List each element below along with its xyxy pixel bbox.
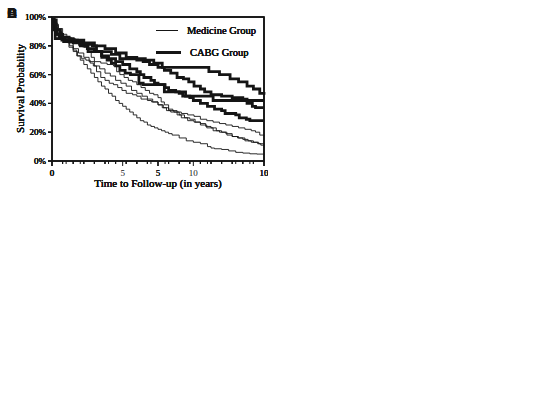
panel-d: D Survival Probability 0%20%40%60%80%100… (0, 0, 270, 204)
x-axis-title: Time to Follow-up (in years) (52, 177, 264, 189)
legend: Medicine Group CABG Group (156, 24, 256, 68)
svg-text:0%: 0% (34, 156, 47, 166)
svg-text:60%: 60% (30, 70, 47, 80)
legend-item-cabg: CABG Group (156, 46, 256, 58)
svg-text:100%: 100% (25, 12, 47, 22)
legend-label-medicine: Medicine Group (187, 25, 256, 36)
legend-label-cabg: CABG Group (190, 47, 249, 58)
figure-canvas: { "colors": { "curve": "#151515", "backg… (0, 0, 540, 409)
svg-text:40%: 40% (30, 98, 47, 108)
legend-item-medicine: Medicine Group (156, 24, 256, 36)
svg-text:20%: 20% (30, 127, 47, 137)
cabg-line-swatch (156, 51, 181, 54)
svg-text:80%: 80% (30, 41, 47, 51)
medicine-line-swatch (156, 30, 178, 31)
